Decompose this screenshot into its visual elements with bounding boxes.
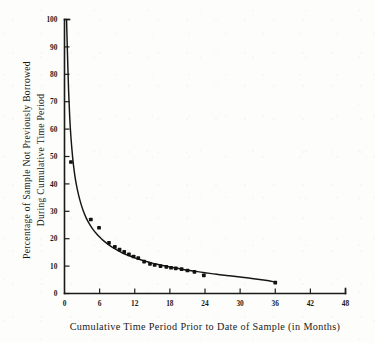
y-tick-label: 80 (50, 70, 58, 79)
figure-container: 0102030405060708090100 0612182430364248 … (0, 0, 375, 343)
y-tick-label: 30 (50, 207, 58, 216)
observed-data-points (69, 160, 277, 284)
data-point (193, 270, 197, 274)
data-point (174, 266, 178, 270)
x-tick-label: 12 (131, 299, 139, 308)
x-tick-label: 0 (63, 299, 67, 308)
data-point (122, 250, 126, 254)
data-point (159, 264, 163, 268)
data-point (69, 160, 73, 164)
data-point (153, 263, 157, 267)
x-tick-label: 42 (307, 299, 315, 308)
data-point (273, 281, 277, 285)
y-axis-title-line-1: Percentage of Sample Not Previously Borr… (21, 61, 32, 259)
x-tick-label: 6 (98, 299, 102, 308)
data-point (113, 245, 117, 249)
x-tick-label: 18 (166, 299, 174, 308)
x-tick-label: 36 (272, 299, 280, 308)
x-tick-label: 48 (342, 299, 350, 308)
data-point (97, 226, 101, 230)
data-point (202, 274, 206, 278)
data-point (180, 267, 184, 271)
y-tick-labels: 0102030405060708090100 (46, 15, 57, 298)
data-point (186, 269, 190, 273)
data-point (136, 256, 140, 260)
data-point (127, 252, 131, 256)
y-tick-label: 10 (50, 262, 58, 271)
x-tick-label: 30 (236, 299, 244, 308)
data-point (165, 265, 169, 269)
y-tick-label: 60 (50, 125, 58, 134)
fitted-decay-curve (67, 20, 276, 282)
y-tick-label: 0 (54, 289, 58, 298)
y-tick-label: 100 (46, 15, 57, 24)
y-tick-label: 70 (50, 97, 58, 106)
decay-curve-chart: 0102030405060708090100 0612182430364248 … (0, 0, 375, 343)
y-tick-label: 40 (50, 180, 58, 189)
data-point (89, 218, 93, 222)
y-tick-label: 50 (50, 152, 58, 161)
data-point (148, 262, 152, 266)
y-tick-label: 90 (50, 43, 58, 52)
data-point (132, 255, 136, 259)
y-axis-title-line-2: During Cumulative Time Period (35, 94, 46, 227)
data-point (142, 260, 146, 264)
data-point (169, 266, 173, 270)
y-tick-label: 20 (50, 234, 58, 243)
x-axis-title: Cumulative Time Period Prior to Date of … (70, 321, 341, 333)
x-tick-label: 24 (201, 299, 209, 308)
x-tick-labels: 0612182430364248 (63, 299, 350, 308)
data-point (107, 241, 111, 245)
data-point (118, 248, 122, 252)
